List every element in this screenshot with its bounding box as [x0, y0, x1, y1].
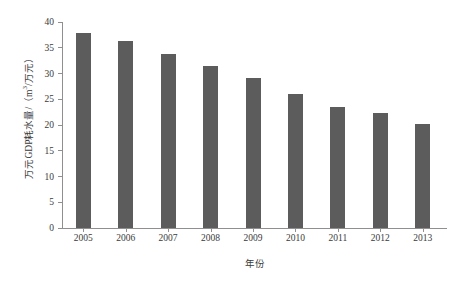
x-axis-tick-mark: [83, 228, 84, 232]
bar: [76, 33, 91, 228]
y-axis-tick-mark: [58, 99, 62, 100]
bar: [118, 41, 133, 228]
y-axis-tick-label: 25: [24, 92, 54, 106]
x-axis-tick-label: 2008: [191, 233, 231, 243]
bar: [161, 54, 176, 228]
x-axis-tick-mark: [253, 228, 254, 232]
y-axis-tick-label: 35: [24, 41, 54, 55]
bar: [415, 124, 430, 228]
bar: [330, 107, 345, 228]
x-axis-tick-mark: [168, 228, 169, 232]
x-axis-title: 年份: [62, 256, 447, 270]
bar: [288, 94, 303, 228]
y-axis-tick-mark: [58, 202, 62, 203]
bar-chart-figure: 万元GDP耗水量/（m3/万元） 0510152025303540 200520…: [0, 0, 471, 291]
y-axis-title-exponent: 3: [22, 86, 30, 90]
x-axis-tick-label: 2006: [106, 233, 146, 243]
x-axis-tick-mark: [126, 228, 127, 232]
y-axis-tick-mark: [58, 228, 62, 229]
x-axis-tick-label: 2011: [318, 233, 358, 243]
y-axis-tick-label: 40: [24, 15, 54, 29]
bar: [246, 78, 261, 228]
x-axis-tick-label: 2013: [403, 233, 443, 243]
x-axis-line: [62, 228, 447, 229]
x-axis-tick-label: 2012: [360, 233, 400, 243]
y-axis-tick-mark: [58, 176, 62, 177]
x-axis-tick-label: 2007: [148, 233, 188, 243]
y-axis-tick-label: 15: [24, 144, 54, 158]
y-axis-tick-label: 5: [24, 195, 54, 209]
y-axis-tick-label: 10: [24, 170, 54, 184]
x-axis-tick-label: 2005: [63, 233, 103, 243]
y-axis-tick-label: 30: [24, 67, 54, 81]
x-axis-tick-mark: [423, 228, 424, 232]
x-axis-tick-label: 2009: [233, 233, 273, 243]
y-axis-tick-mark: [58, 73, 62, 74]
bar: [203, 66, 218, 228]
y-axis-tick-label: 0: [24, 221, 54, 235]
x-axis-tick-mark: [380, 228, 381, 232]
y-axis-tick-label: 20: [24, 118, 54, 132]
x-axis-tick-mark: [338, 228, 339, 232]
bar: [373, 113, 388, 228]
x-axis-tick-labels: 200520062007200820092010201120122013: [62, 233, 447, 249]
plot-area: 0510152025303540: [62, 22, 444, 228]
y-axis-tick-mark: [58, 150, 62, 151]
x-axis-tick-label: 2010: [275, 233, 315, 243]
x-axis-tick-mark: [211, 228, 212, 232]
y-axis-tick-mark: [58, 125, 62, 126]
x-axis-tick-mark: [295, 228, 296, 232]
y-axis-tick-mark: [58, 47, 62, 48]
y-axis-tick-mark: [58, 22, 62, 23]
